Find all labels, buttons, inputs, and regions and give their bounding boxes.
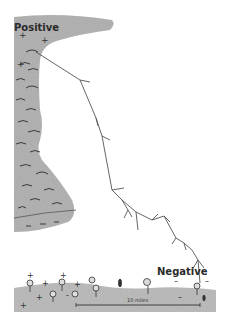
charge-plus: + — [17, 59, 25, 69]
charge-plus: + — [41, 35, 49, 45]
thundercloud: + + + — [14, 15, 114, 232]
positive-label: Positive — [14, 22, 59, 33]
negative-label: Negative — [157, 266, 208, 277]
svg-text:–: – — [205, 277, 209, 286]
ground: ++++ ++- ––– — [14, 271, 216, 312]
svg-text:–: – — [178, 293, 182, 302]
svg-text:+: + — [27, 271, 34, 280]
lightning-bolt — [36, 52, 204, 283]
svg-text:+: + — [60, 271, 67, 280]
distance-label: 10 miles — [127, 297, 148, 303]
svg-text:+: + — [36, 293, 43, 302]
svg-text:+: + — [42, 279, 49, 288]
svg-text:+: + — [74, 280, 81, 289]
svg-text:+: + — [20, 301, 27, 310]
svg-text:–: – — [174, 277, 178, 286]
svg-text:-: - — [66, 291, 69, 300]
